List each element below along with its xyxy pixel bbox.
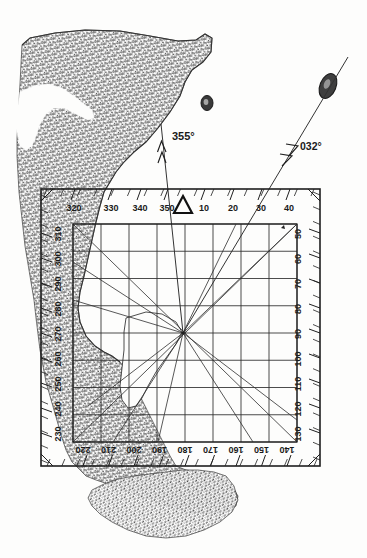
scale-top-label: 340 [132,203,147,213]
small-island [201,96,213,111]
scale-bottom-label: 220 [75,445,90,455]
scale-left-label: 240 [53,401,63,416]
scale-top-label: 330 [103,203,118,213]
scale-left-label: 290 [53,276,63,291]
scale-bottom-label: 180 [177,445,192,455]
scale-top-label: 10 [199,203,209,213]
scale-top-label: 350 [159,203,174,213]
scale-left-label: 260 [53,351,63,366]
chart-svg: 355° 032° 32033034035010203040 506070809… [0,0,367,558]
scale-top-label: 40 [284,203,294,213]
scale-right-label: 70 [293,279,303,289]
scale-left-label: 230 [53,426,63,441]
scale-right-label: 110 [293,377,303,392]
scale-left-label: 270 [53,326,63,341]
chart-canvas: 355° 032° 32033034035010203040 506070809… [0,0,367,558]
bearing-label-032: 032° [300,140,322,152]
scale-bottom-label: 170 [203,445,218,455]
scale-right-label: 120 [293,401,303,416]
scale-top-label: 30 [256,203,266,213]
fix-point [181,331,184,334]
plot-grid [73,224,297,442]
scale-left-label: 250 [53,376,63,391]
scale-bottom-label: 160 [228,445,243,455]
scale-top-label: 320 [66,203,81,213]
scale-left-label: 300 [53,251,63,266]
scale-right-label: 90 [293,329,303,339]
scale-top-label: 20 [228,203,238,213]
scale-bottom-label: 210 [101,445,116,455]
scale-bottom-label: 200 [126,445,141,455]
scale-bottom-label: 140 [279,445,294,455]
scale-right-label: 60 [293,254,303,264]
scale-left-label: 310 [53,226,63,241]
bearing-label-355: 355° [172,130,195,142]
scale-bottom-label: 190 [152,445,167,455]
scale-bottom-label: 150 [254,445,269,455]
scale-left-label: 280 [53,301,63,316]
scale-right-label: 50 [293,229,303,239]
scale-right-label: 100 [293,351,303,366]
